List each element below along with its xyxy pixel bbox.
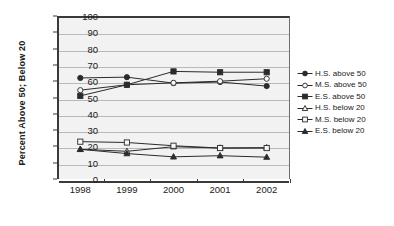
legend-item[interactable]: H.S. below 20	[297, 104, 367, 113]
x-tick-mark	[290, 179, 291, 183]
data-point	[264, 76, 269, 81]
x-tick-label: 1998	[57, 184, 103, 195]
legend-item[interactable]: M.S. above 50	[297, 81, 367, 90]
legend-marker-icon	[297, 81, 313, 90]
x-tick-label: 2001	[197, 184, 243, 195]
series-m-s-above-50	[78, 76, 270, 93]
data-point	[218, 145, 223, 150]
legend-label: E.S. above 50	[315, 93, 365, 101]
data-point	[124, 140, 129, 145]
data-point	[264, 70, 269, 75]
legend-marker-icon	[297, 69, 313, 78]
x-tick-mark	[150, 179, 151, 183]
legend-label: E.S. below 20	[315, 127, 364, 135]
data-point	[78, 88, 83, 93]
y-axis-title: Percent Above 50; Below 20	[17, 18, 27, 188]
chart-legend: H.S. above 50M.S. above 50E.S. above 50H…	[297, 69, 367, 136]
legend-item[interactable]: M.S. below 20	[297, 115, 367, 124]
x-tick-mark	[243, 179, 244, 183]
data-point	[218, 70, 223, 75]
data-point	[77, 146, 83, 151]
legend-marker-icon	[297, 115, 313, 124]
x-tick-label: 2000	[151, 184, 197, 195]
data-point	[217, 152, 223, 157]
legend-item[interactable]: E.S. above 50	[297, 92, 367, 101]
data-point	[171, 143, 176, 148]
x-tick-label: 2002	[244, 184, 290, 195]
data-point	[171, 69, 176, 74]
data-point	[78, 75, 83, 80]
legend-item[interactable]: E.S. below 20	[297, 127, 367, 136]
legend-marker-icon	[297, 104, 313, 113]
data-point	[264, 145, 269, 150]
data-point	[78, 93, 83, 98]
x-tick-mark	[104, 179, 105, 183]
data-point	[124, 82, 129, 87]
legend-label: H.S. below 20	[315, 104, 365, 112]
data-series-layer	[57, 16, 290, 179]
data-point	[218, 79, 223, 84]
data-point	[171, 80, 176, 85]
line-chart: Percent Above 50; Below 20 1009080706050…	[0, 0, 394, 226]
data-point	[124, 75, 129, 80]
x-tick-mark	[197, 179, 198, 183]
legend-marker-icon	[297, 92, 313, 101]
data-point	[264, 83, 269, 88]
legend-label: H.S. above 50	[315, 70, 366, 78]
legend-item[interactable]: H.S. above 50	[297, 69, 367, 78]
legend-marker-icon	[297, 127, 313, 136]
data-point	[78, 139, 83, 144]
x-tick-label: 1999	[104, 184, 150, 195]
legend-label: M.S. above 50	[315, 81, 367, 89]
legend-label: M.S. below 20	[315, 116, 366, 124]
